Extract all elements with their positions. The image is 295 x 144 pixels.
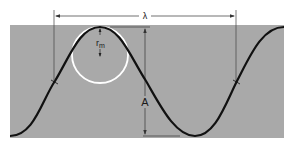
wavelength-label: λ	[143, 11, 148, 21]
wavelength-arrow-right	[230, 14, 235, 17]
wavelength-arrow-left	[55, 14, 60, 17]
radius-subscript: m	[99, 42, 105, 49]
amplitude-label: A	[141, 96, 149, 108]
wave-diagram: λ A rm	[0, 0, 295, 144]
